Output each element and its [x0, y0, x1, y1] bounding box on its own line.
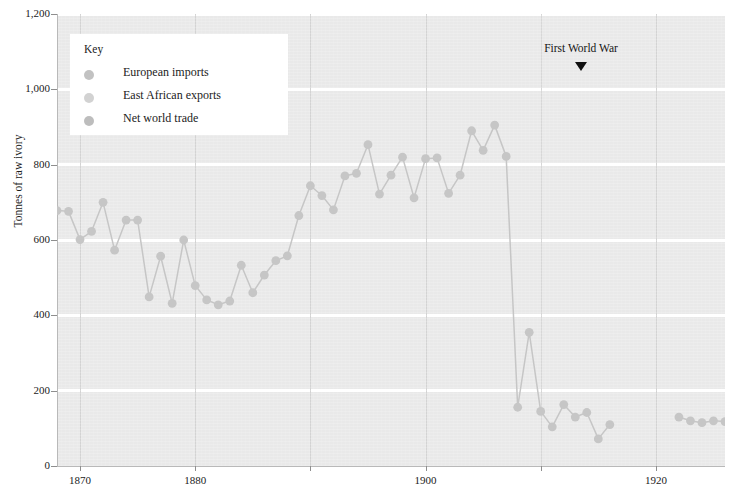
- x-tick-mark-1910: [541, 466, 542, 471]
- data-point: [559, 400, 568, 409]
- data-point: [329, 205, 338, 214]
- data-point: [99, 198, 108, 207]
- data-point: [490, 121, 499, 130]
- chart-root: Tonnes of raw ivory 02004006008001,0001,…: [0, 0, 732, 501]
- legend-title: Key: [84, 43, 103, 55]
- page-title-fragment: [0, 0, 732, 1]
- data-point: [110, 246, 119, 255]
- data-point: [548, 422, 557, 431]
- data-point: [571, 413, 580, 422]
- legend-label: Net world trade: [123, 111, 198, 126]
- series-0: [57, 121, 725, 444]
- series-line: [57, 125, 610, 439]
- data-point: [294, 211, 303, 220]
- data-point: [214, 300, 223, 309]
- data-point: [64, 207, 73, 216]
- data-point: [513, 403, 522, 412]
- data-point: [605, 420, 614, 429]
- y-tick-label-1000: 1,000: [0, 82, 57, 94]
- data-point: [502, 152, 511, 161]
- legend-marker-circle-icon: [84, 93, 94, 103]
- data-point: [145, 292, 154, 301]
- data-point: [675, 413, 684, 422]
- x-tick-mark-1890: [310, 466, 311, 471]
- y-tick-label-600: 600: [0, 233, 57, 245]
- x-tick-label-1900: 1900: [415, 474, 437, 486]
- data-point: [283, 251, 292, 260]
- data-point: [444, 189, 453, 198]
- data-point: [364, 140, 373, 149]
- data-point: [225, 297, 234, 306]
- data-point: [686, 416, 695, 425]
- data-point: [271, 256, 280, 265]
- legend-box: Key European importsEast African exports…: [70, 34, 288, 135]
- x-tick-label-1880: 1880: [184, 474, 206, 486]
- data-point: [352, 169, 361, 178]
- data-point: [237, 261, 246, 270]
- y-tick-label-800: 800: [0, 158, 57, 170]
- data-point: [594, 434, 603, 443]
- data-point: [536, 407, 545, 416]
- data-point: [260, 271, 269, 280]
- legend-label: European imports: [123, 65, 209, 80]
- x-tick-mark-1870: [80, 466, 81, 471]
- data-point: [179, 236, 188, 245]
- data-point: [133, 216, 142, 225]
- data-point: [433, 153, 442, 162]
- data-point: [709, 416, 718, 425]
- data-point: [306, 181, 315, 190]
- data-point: [582, 408, 591, 417]
- x-tick-label-1870: 1870: [69, 474, 91, 486]
- y-tick-label-0: 0: [0, 459, 57, 471]
- data-point: [456, 171, 465, 180]
- data-point: [156, 252, 165, 261]
- data-point: [248, 288, 257, 297]
- data-point: [525, 328, 534, 337]
- y-tick-label-1200: 1,200: [0, 7, 57, 19]
- data-point: [87, 227, 96, 236]
- data-point: [398, 153, 407, 162]
- legend-marker-circle-icon: [84, 70, 94, 80]
- data-point: [421, 154, 430, 163]
- data-point: [168, 299, 177, 308]
- data-point: [410, 193, 419, 202]
- annotation-down-triangle-icon: [575, 62, 587, 71]
- data-point: [467, 126, 476, 135]
- data-point: [341, 172, 350, 181]
- y-tick-label-400: 400: [0, 308, 57, 320]
- data-point: [191, 281, 200, 290]
- x-tick-mark-1900: [426, 466, 427, 471]
- data-point: [479, 146, 488, 155]
- data-point: [721, 417, 725, 426]
- data-point: [698, 418, 707, 427]
- data-point: [375, 190, 384, 199]
- legend-label: East African exports: [123, 88, 221, 103]
- data-point: [318, 191, 327, 200]
- annotation-label: First World War: [544, 42, 618, 54]
- data-point: [57, 206, 61, 215]
- data-point: [387, 171, 396, 180]
- data-point: [122, 216, 131, 225]
- x-axis-line: [57, 466, 725, 467]
- legend-marker-circle-icon: [84, 116, 94, 126]
- x-tick-mark-1920: [656, 466, 657, 471]
- y-tick-label-200: 200: [0, 384, 57, 396]
- data-point: [76, 235, 85, 244]
- data-point: [202, 295, 211, 304]
- x-tick-label-1920: 1920: [645, 474, 667, 486]
- x-tick-mark-1880: [195, 466, 196, 471]
